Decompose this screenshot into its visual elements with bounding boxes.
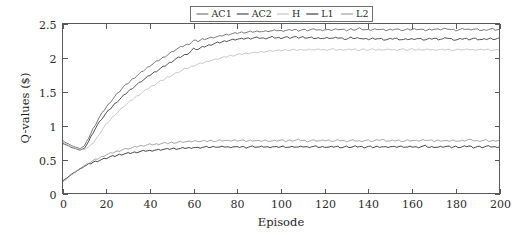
x-tick-label: 140 (358, 198, 379, 211)
y-tick-label: 1.5 (39, 87, 57, 100)
chart-canvas: Q-values ($) 00.511.522.5 02040608010012… (0, 0, 529, 235)
x-tick-label: 160 (402, 198, 423, 211)
chart-legend: AC1AC2HL1L2 (191, 7, 373, 22)
y-tick-label: 0.5 (39, 155, 57, 168)
x-tick-label: 80 (231, 198, 245, 211)
x-tick-label: 200 (490, 198, 511, 211)
x-tick-label: 180 (446, 198, 467, 211)
legend-label-ac2: AC2 (251, 8, 272, 19)
y-axis-title-label: Q-values ($) (18, 73, 32, 144)
x-tick-label: 20 (100, 198, 114, 211)
x-tick-label: 60 (188, 198, 202, 211)
chart-figure: Q-values ($) 00.511.522.5 02040608010012… (0, 0, 529, 235)
legend-label-h: H (292, 8, 300, 19)
x-tick-label: 40 (144, 198, 158, 211)
y-tick-label: 0 (50, 189, 57, 202)
y-tick-label: 2 (50, 53, 57, 66)
legend-label-l2: L2 (356, 8, 368, 19)
y-tick-label: 1 (50, 121, 57, 134)
x-tick-label: 0 (60, 198, 67, 211)
legend-label-ac1: AC1 (211, 8, 232, 19)
x-axis-title-label: Episode (258, 215, 305, 229)
legend-label-l1: L1 (321, 8, 333, 19)
y-tick-label: 2.5 (39, 19, 57, 32)
x-tick-label: 120 (315, 198, 336, 211)
x-tick-label: 100 (271, 198, 292, 211)
y-axis-title: Q-values ($) (18, 73, 32, 144)
